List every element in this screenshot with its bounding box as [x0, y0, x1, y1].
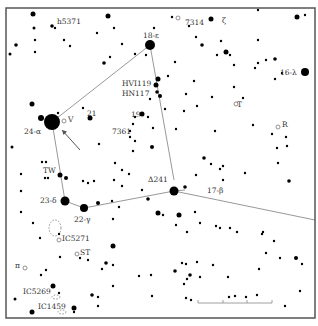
star [199, 222, 201, 224]
star [101, 268, 103, 270]
star [87, 182, 89, 184]
star [32, 222, 34, 224]
star [59, 256, 61, 258]
star [183, 110, 185, 112]
star [229, 227, 231, 229]
star [224, 50, 229, 55]
star [236, 231, 238, 233]
star [285, 136, 287, 138]
star [111, 200, 113, 202]
star [175, 128, 177, 130]
star [274, 78, 276, 80]
star [14, 298, 17, 301]
star [185, 93, 187, 95]
star [41, 161, 43, 163]
star [156, 211, 161, 216]
star [254, 67, 256, 69]
star-label-zeta: ζ [222, 16, 226, 25]
star [295, 15, 300, 20]
star [20, 211, 22, 213]
star-label-hn117: HN117 [122, 89, 150, 98]
star-label-epsilon: 18-ε [143, 31, 159, 40]
star [273, 240, 275, 242]
star [58, 233, 60, 235]
star-label-ST: ST [80, 248, 90, 257]
star [61, 197, 70, 206]
star [147, 116, 149, 118]
star [156, 77, 161, 82]
star [219, 168, 221, 170]
star [284, 305, 286, 307]
star [129, 136, 131, 138]
star [233, 86, 235, 88]
star [112, 264, 114, 266]
star [151, 295, 153, 297]
star [167, 75, 169, 77]
star-label-h5371: h5371 [57, 17, 81, 26]
star [252, 124, 254, 126]
star [188, 273, 192, 277]
star [258, 268, 260, 270]
star-label-ic1459: IC1459 [38, 302, 66, 311]
star [195, 174, 197, 176]
star [154, 83, 159, 88]
star [82, 180, 84, 182]
star [58, 173, 63, 178]
star [174, 61, 176, 63]
star [118, 206, 120, 208]
star [50, 24, 54, 28]
star [279, 257, 281, 259]
star [63, 39, 65, 41]
star [185, 297, 187, 299]
star [47, 177, 49, 179]
star [72, 306, 77, 311]
star [209, 17, 214, 22]
star-label-R: R [282, 120, 288, 129]
star [202, 156, 206, 160]
star-label-T: T [237, 100, 242, 109]
star-label-ic5271: IC5271 [62, 234, 90, 243]
star [150, 145, 154, 149]
star [57, 112, 59, 114]
star-label-V: V [67, 115, 74, 124]
star [58, 292, 60, 294]
star [121, 185, 123, 187]
star-label-delta241: Δ241 [148, 175, 168, 184]
star [200, 43, 204, 47]
star-label-gamma: 22-γ [74, 215, 91, 224]
star [257, 62, 259, 64]
star [145, 54, 147, 56]
star [97, 296, 99, 298]
star [30, 310, 35, 315]
star [211, 96, 213, 98]
star-label-hv1119: HVI119 [122, 79, 151, 88]
star [20, 173, 22, 175]
star [149, 98, 151, 100]
star-label-delta: 23-δ [40, 196, 57, 205]
star [301, 68, 309, 76]
star [227, 276, 229, 278]
star [138, 275, 140, 277]
star [222, 179, 224, 181]
star [256, 294, 258, 296]
star [150, 274, 152, 276]
star [304, 14, 306, 16]
star-label-alpha: 24-α [24, 127, 41, 136]
star [121, 169, 123, 171]
star [261, 233, 263, 235]
star [158, 94, 162, 98]
star [271, 133, 273, 135]
star-chart: h53717314ζ18-ε16-λHVI119HN117T2119VR24-α… [0, 0, 318, 326]
star-label-19: 19 [131, 110, 141, 119]
star [233, 64, 235, 66]
star [196, 261, 198, 263]
star [229, 54, 231, 56]
star [171, 16, 173, 18]
star [98, 143, 100, 145]
star [162, 214, 164, 216]
star [44, 114, 60, 130]
star [112, 218, 114, 220]
star [219, 227, 221, 229]
star [96, 32, 98, 34]
star [183, 283, 185, 285]
